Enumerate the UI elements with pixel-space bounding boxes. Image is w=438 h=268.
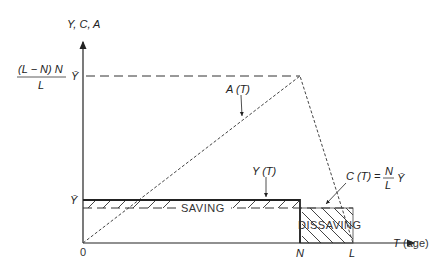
Y-label: Y (T) bbox=[252, 165, 277, 177]
C-label-denominator: L bbox=[385, 179, 391, 191]
A-label: A (T) bbox=[225, 83, 250, 95]
y-tick-peak-suffix: Ȳ bbox=[71, 70, 79, 82]
A-pointer bbox=[241, 95, 242, 116]
origin-label: 0 bbox=[80, 246, 86, 258]
y-tick-peak-numerator: (L − N) N bbox=[18, 63, 63, 75]
dissaving-label: DISSAVING bbox=[298, 219, 362, 231]
y-tick-income: Ȳ bbox=[70, 194, 78, 206]
y-tick-peak-denominator: L bbox=[38, 79, 44, 91]
life-cycle-diagram: Y, C, A 0 N L T (age) Ȳ (L − N) N L Ȳ A … bbox=[0, 0, 438, 268]
y-axis-label: Y, C, A bbox=[67, 18, 100, 30]
C-label-suffix: Ȳ bbox=[397, 172, 405, 184]
asset-curve-A bbox=[83, 76, 353, 243]
x-tick-N: N bbox=[296, 247, 304, 259]
C-pointer bbox=[326, 183, 346, 204]
C-label-numerator: N bbox=[385, 165, 393, 177]
x-axis-label-suffix: (age) bbox=[403, 237, 429, 249]
x-tick-L: L bbox=[349, 247, 355, 259]
C-label-lhs: C (T) = bbox=[346, 170, 381, 182]
saving-label: SAVING bbox=[181, 202, 225, 214]
